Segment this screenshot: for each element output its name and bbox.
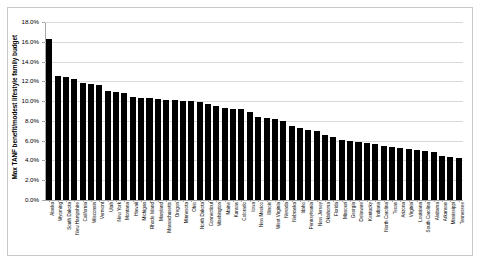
bar [230, 109, 236, 200]
bar [180, 101, 186, 200]
x-axis-tick-label: Alabama [436, 202, 441, 220]
y-axis-tick-label: 10.0% [21, 98, 39, 104]
x-axis-tick-label: Vermont [101, 202, 106, 219]
x-axis-tick-label: Iowa [252, 202, 257, 212]
x-axis-tick-label: South Carolina [427, 202, 432, 232]
x-axis-tick-label: Kansas [235, 202, 240, 217]
bar [63, 77, 69, 200]
y-axis-tick-label: 0.0% [25, 197, 39, 203]
x-axis-tick-label: New York [118, 202, 123, 221]
x-axis-tick-label: North Carolina [385, 202, 390, 232]
bar [289, 126, 295, 200]
bar [138, 98, 144, 200]
bar [414, 150, 420, 200]
y-axis-tick-label: 16.0% [21, 39, 39, 45]
bar [205, 104, 211, 200]
bar [172, 100, 178, 200]
y-axis-tick-labels: 0.0%2.0%4.0%6.0%8.0%10.0%12.0%14.0%16.0%… [0, 0, 45, 200]
x-axis-tick-label: Minnesota [185, 202, 190, 223]
x-axis-tick-label: New Jersey [319, 202, 324, 226]
bar [364, 143, 370, 200]
x-axis-tick-label: Idaho [302, 202, 307, 214]
bar [330, 137, 336, 200]
y-axis-tick-label: 12.0% [21, 78, 39, 84]
x-axis-tick-label: West Virginia [277, 202, 282, 229]
bar [105, 91, 111, 200]
bar [447, 157, 453, 201]
x-axis-tick-label: Kentucky [369, 202, 374, 221]
bar [80, 83, 86, 200]
x-axis-tick-label: Virginia [410, 202, 415, 217]
y-axis-tick-label: 4.0% [25, 157, 39, 163]
x-axis-tick-label: Delaware [360, 202, 365, 221]
bar [456, 158, 462, 200]
bar [339, 140, 345, 200]
y-axis-tick-label: 6.0% [25, 138, 39, 144]
x-axis-tick-label: Maryland [160, 202, 165, 221]
bar [213, 106, 219, 200]
bar [146, 98, 152, 200]
x-axis-tick-label: Michigan [143, 202, 148, 220]
x-axis-tick-label: Montana [126, 202, 131, 220]
x-axis-tick-label: Pennsylvania [310, 202, 315, 229]
x-axis-tick-label: Maine [227, 202, 232, 215]
x-axis-tick-label: Louisiana [419, 202, 424, 222]
bar [46, 39, 52, 200]
bar [264, 118, 270, 200]
bar [314, 131, 320, 200]
bar [439, 156, 445, 201]
bar [322, 135, 328, 200]
bar [238, 109, 244, 200]
x-axis-tick-label: Missouri [344, 202, 349, 219]
bar [130, 97, 136, 200]
bar [355, 142, 361, 200]
y-axis-tick-label: 2.0% [25, 177, 39, 183]
bar [372, 144, 378, 200]
x-axis-tick-label: North Dakota [201, 202, 206, 229]
bar [272, 119, 278, 200]
bar [406, 149, 412, 200]
bar [381, 146, 387, 200]
x-axis-tick-label: Massachusetts [168, 202, 173, 233]
x-axis-tick-label: Oregon [176, 202, 181, 217]
x-axis-tick-label: Indiana [377, 202, 382, 217]
bar [163, 100, 169, 200]
x-axis-tick-label: Colorado [243, 202, 248, 221]
bar [197, 102, 203, 200]
x-axis-tick-label: California [84, 202, 89, 221]
bar [422, 151, 428, 200]
bar [305, 130, 311, 200]
plot-area [45, 22, 463, 200]
x-axis-tick-label: New Hampshire [76, 202, 81, 235]
x-axis-tick-label: Washington [218, 202, 223, 226]
x-axis-tick-label: Connecticut [210, 202, 215, 226]
x-axis-tick-label: Arkansas [444, 202, 449, 221]
bar [155, 99, 161, 200]
x-axis-tick-label: Florida [335, 202, 340, 216]
x-axis-tick-label: Nebraska [293, 202, 298, 222]
bar [96, 85, 102, 200]
bar [280, 121, 286, 200]
x-axis-tick-label: Oklahoma [327, 202, 332, 223]
x-axis-tick-label: South Dakota [68, 202, 73, 230]
bar [121, 93, 127, 200]
bar [389, 147, 395, 200]
bar-series [45, 22, 463, 200]
bar [297, 128, 303, 200]
bar [188, 101, 194, 200]
x-axis-tick-label: Arizona [402, 202, 407, 218]
y-axis-tick-label: 18.0% [21, 19, 39, 25]
x-axis-tick-label: Nevada [285, 202, 290, 218]
x-axis-tick-label: Rhode Island [151, 202, 156, 229]
x-axis-tick-label: Alaska [51, 202, 56, 216]
x-axis-tick-label: Mississippi [452, 202, 457, 224]
y-axis-tick-label: 8.0% [25, 118, 39, 124]
x-axis-tick-label: Hawaii [135, 202, 140, 216]
bar [347, 141, 353, 200]
x-axis-tick-label: Georgia [352, 202, 357, 218]
chart-figure: Max TANF benefit/modest lifestyle family… [0, 0, 480, 263]
bar [88, 84, 94, 200]
bar [397, 148, 403, 200]
x-axis-tick-label: Wisconsin [93, 202, 98, 223]
bar [222, 108, 228, 200]
